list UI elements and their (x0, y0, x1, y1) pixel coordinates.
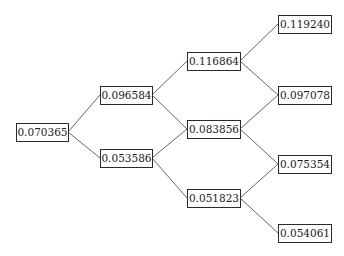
tree-node-n3b: 0.097078 (279, 87, 332, 105)
tree-node-n3d: 0.054061 (279, 225, 332, 243)
node-value: 0.097078 (280, 89, 330, 101)
tree-node-n3a: 0.119240 (279, 16, 332, 34)
tree-edge-n2u-n3a (240, 24, 278, 61)
node-value: 0.116864 (189, 55, 239, 67)
node-value: 0.096584 (101, 89, 151, 101)
tree-edge-n2d-n3d (240, 198, 278, 233)
tree-edge-n2m-n3b (240, 95, 278, 129)
tree-edge-n1d-n2m (152, 129, 187, 158)
tree-node-n2d: 0.051823 (188, 190, 241, 208)
node-value: 0.051823 (189, 192, 239, 204)
node-value: 0.054061 (280, 227, 330, 239)
tree-node-n2u: 0.116864 (188, 53, 241, 71)
tree-node-n1d: 0.053586 (101, 150, 153, 168)
tree-edge-n0-n1u (68, 95, 100, 132)
tree-edge-n2u-n3b (240, 61, 278, 95)
tree-edges (68, 24, 278, 233)
tree-edge-n1u-n2m (152, 95, 187, 129)
tree-nodes: 0.0703650.0965840.0535860.1168640.083856… (17, 16, 332, 243)
node-value: 0.083856 (189, 123, 239, 135)
tree-node-n2m: 0.083856 (188, 121, 241, 139)
tree-edge-n1d-n2d (152, 158, 187, 198)
tree-node-n3c: 0.075354 (279, 156, 332, 174)
node-value: 0.075354 (280, 158, 330, 170)
tree-edge-n2m-n3c (240, 129, 278, 164)
node-value: 0.119240 (280, 18, 330, 30)
tree-node-n0: 0.070365 (17, 124, 69, 142)
tree-node-n1u: 0.096584 (101, 87, 153, 105)
tree-edge-n0-n1d (68, 132, 100, 158)
tree-edge-n2d-n3c (240, 164, 278, 198)
node-value: 0.053586 (101, 152, 151, 164)
binomial-tree-diagram: 0.0703650.0965840.0535860.1168640.083856… (0, 0, 344, 256)
tree-edge-n1u-n2u (152, 61, 187, 95)
node-value: 0.070365 (17, 126, 67, 138)
